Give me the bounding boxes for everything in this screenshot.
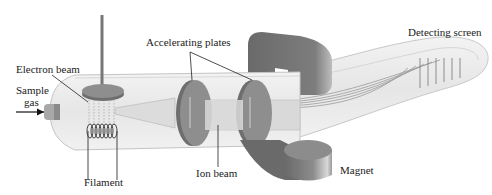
ion-beam-segment [205, 100, 243, 130]
label-magnet: Magnet [340, 164, 374, 176]
sample-gas-arrow-icon [16, 109, 44, 116]
label-accelerating-plates: Accelerating plates [146, 36, 231, 48]
label-ion-beam: Ion beam [196, 167, 237, 179]
label-sample-gas-line1: Sample [16, 84, 49, 96]
magnet-lower [240, 140, 332, 181]
label-sample-gas-line2: gas [24, 96, 39, 108]
label-detecting-screen: Detecting screen [408, 26, 482, 38]
sample-gas-inlet [44, 104, 60, 120]
electrode-disk [82, 15, 124, 101]
label-electron-beam: Electron beam [16, 63, 80, 75]
label-filament: Filament [84, 176, 123, 188]
